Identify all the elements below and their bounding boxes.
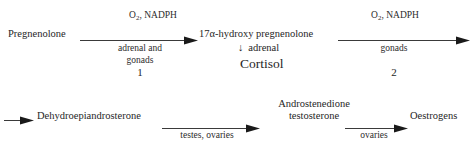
reaction-3-site-line-1: testes, ovaries (162, 130, 252, 142)
reaction-2-site-line-1: gonads (340, 43, 448, 55)
row-continuation-arrow (4, 116, 34, 125)
node-cortisol: Cortisol (240, 56, 284, 71)
reaction-2-cofactor-suffix: , NADPH (381, 10, 418, 20)
reaction-1-cofactor-label: O2, NADPH (98, 10, 208, 23)
node-pregnenolone: Pregnenolone (8, 28, 66, 40)
cortisol-branch-site: adrenal (248, 42, 279, 53)
reaction-4-site-line-1: ovaries (345, 130, 403, 142)
reaction-1-cofactor-prefix: O (129, 10, 136, 20)
reaction-3-site-label: testes, ovaries (162, 130, 252, 142)
reaction-1-step-number: 1 (88, 66, 192, 78)
reaction-2-step-number: 2 (340, 66, 448, 78)
reaction-1-cofactor-suffix: , NADPH (139, 10, 176, 20)
node-17alpha-hydroxy-pregnenolone: 17α-hydroxy pregnenolone (199, 28, 313, 40)
node-androstenedione-testosterone: Androstenedione testosterone (258, 98, 370, 122)
reaction-2-site-label: gonads (340, 43, 448, 55)
node-oestrogens: Oestrogens (410, 110, 457, 122)
reaction-1-site-line-1: adrenal and (88, 43, 192, 55)
reaction-2-cofactor-prefix: O (371, 10, 378, 20)
node-dehydroepiandrosterone: Dehydroepiandrosterone (37, 110, 141, 122)
reaction-1-site-label: adrenal and gonads (88, 43, 192, 66)
reaction-4-site-label: ovaries (345, 130, 403, 142)
reaction-1-site-line-2: gonads (88, 55, 192, 67)
reaction-2-cofactor-label: O2, NADPH (340, 10, 450, 23)
steroidogenesis-pathway-diagram: O2, NADPH Pregnenolone adrenal and gonad… (0, 0, 472, 149)
node-androstenedione-line-1: Androstenedione (258, 98, 370, 110)
node-androstenedione-line-2: testosterone (258, 110, 370, 122)
cortisol-branch-label: ↓adrenal (238, 42, 279, 54)
down-arrow-icon: ↓ (238, 42, 243, 53)
